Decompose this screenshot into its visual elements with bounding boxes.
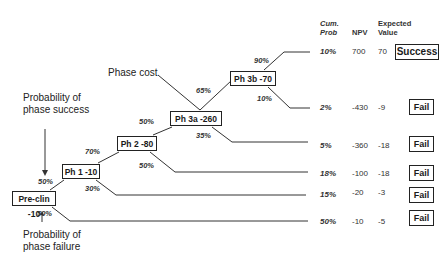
pct-ph2-success: 50% <box>139 117 154 126</box>
annotation-prob-failure-line2: phase failure <box>23 241 80 253</box>
outcome-fail-badge: Fail <box>409 165 434 181</box>
outcome-fail-badge: Fail <box>409 99 434 115</box>
outcome-fail-badge: Fail <box>409 187 434 203</box>
outcome-fail-badge: Fail <box>409 136 434 152</box>
row-cum-prob: 5% <box>320 141 332 150</box>
branch-ph1-failure <box>96 180 306 195</box>
row-ev: 70 <box>378 47 387 56</box>
branch-ph2-failure <box>150 152 308 172</box>
outcome-fail-badge: Fail <box>409 210 434 226</box>
branch-ph3b-success <box>264 52 310 70</box>
header-cum-prob-line1: Cum. <box>320 19 339 28</box>
pct-ph3b-success: 90% <box>254 56 269 65</box>
pct-ph3b-failure: 10% <box>257 94 272 103</box>
prob-success-arrowhead <box>42 170 48 176</box>
header-npv: NPV <box>352 28 367 37</box>
row-ev: -3 <box>378 188 385 197</box>
branch-ph1-success <box>98 152 119 163</box>
phase-cost-pointer <box>158 75 200 110</box>
row-npv: -20 <box>352 188 364 197</box>
node-ph2: Ph 2 -80 <box>117 136 157 151</box>
row-cum-prob: 2% <box>320 103 332 112</box>
node-preclin: Pre-clin -10 <box>12 191 56 206</box>
row-cum-prob: 18% <box>320 169 336 178</box>
row-npv: -430 <box>352 103 368 112</box>
pct-preclin-success: 50% <box>38 177 53 186</box>
row-ev: -9 <box>378 103 385 112</box>
row-ev: -18 <box>378 141 390 150</box>
node-ph1: Ph 1 -10 <box>62 164 100 179</box>
node-ph3b: Ph 3b -70 <box>230 71 276 86</box>
header-ev-line1: Expected <box>378 19 411 28</box>
row-cum-prob: 50% <box>320 217 336 226</box>
pct-ph2-failure: 50% <box>139 161 154 170</box>
annotation-phase-cost: Phase cost <box>108 67 157 79</box>
branch-ph3a-failure <box>212 127 308 142</box>
branch-ph2-success <box>153 127 172 135</box>
branch-ph3a-success <box>200 80 232 110</box>
pct-ph1-failure: 30% <box>85 184 100 193</box>
header-cum-prob-line2: Prob <box>320 28 337 37</box>
row-ev: -5 <box>378 217 385 226</box>
pct-ph1-success: 70% <box>85 147 100 156</box>
header-ev-line2: Value <box>378 28 398 37</box>
row-npv: -10 <box>352 217 364 226</box>
row-npv: -100 <box>352 169 368 178</box>
annotation-prob-success-line2: phase success <box>23 104 89 116</box>
pct-ph3a-failure: 35% <box>196 131 211 140</box>
node-ph3a: Ph 3a -260 <box>170 111 222 126</box>
row-npv: 700 <box>352 47 365 56</box>
row-ev: -18 <box>378 169 390 178</box>
pct-ph3a-success: 65% <box>196 86 211 95</box>
annotation-prob-success-line1: Probability of <box>23 92 81 104</box>
branch-preclin-failure <box>52 207 308 221</box>
annotation-prob-failure-line1: Probability of <box>23 229 81 241</box>
row-npv: -360 <box>352 141 368 150</box>
row-cum-prob: 10% <box>320 47 336 56</box>
row-cum-prob: 15% <box>320 190 336 199</box>
branch-ph3b-failure <box>268 87 310 108</box>
pct-preclin-failure: 50% <box>37 209 52 218</box>
outcome-success-badge: Success <box>395 44 439 60</box>
